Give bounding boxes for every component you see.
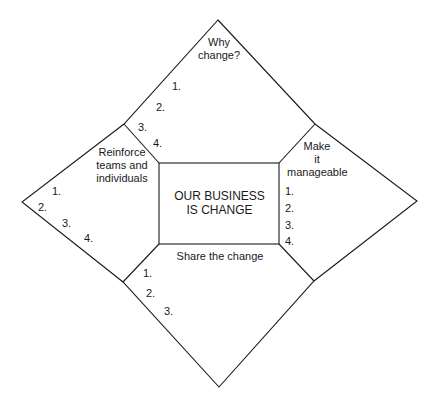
reinforce-item-2: 2.	[38, 201, 47, 214]
title-line: individuals	[94, 172, 150, 185]
divider-bottom-right	[279, 244, 314, 281]
section-title-share-change: Share the change	[170, 250, 270, 263]
share-item-2: 2.	[146, 287, 155, 300]
divider-bottom-left	[123, 244, 159, 282]
why-item-3: 3.	[138, 121, 147, 134]
title-line: Reinforce	[94, 146, 150, 159]
section-title-reinforce-teams: Reinforce teams and individuals	[94, 146, 150, 185]
section-title-make-manageable: Make it manageable	[287, 140, 347, 179]
manageable-item-4: 4.	[285, 235, 294, 248]
share-item-3: 3.	[164, 305, 173, 318]
title-line: manageable	[287, 166, 347, 179]
manageable-item-2: 2.	[285, 202, 294, 215]
reinforce-item-3: 3.	[62, 217, 71, 230]
title-line: Make	[287, 140, 347, 153]
why-item-1: 1.	[172, 80, 181, 93]
title-line: teams and	[94, 159, 150, 172]
title-line: it	[287, 153, 347, 166]
manageable-item-3: 3.	[285, 219, 294, 232]
reinforce-item-4: 4.	[84, 232, 93, 245]
why-item-4: 4.	[153, 137, 162, 150]
reinforce-item-1: 1.	[52, 185, 61, 198]
share-item-1: 1.	[143, 267, 152, 280]
center-title-line: OUR BUSINESS	[160, 189, 279, 203]
center-title-line: IS CHANGE	[160, 203, 279, 217]
title-line: Why	[196, 36, 242, 49]
center-title: OUR BUSINESS IS CHANGE	[160, 189, 279, 217]
why-item-2: 2.	[156, 101, 165, 114]
manageable-item-1: 1.	[285, 185, 294, 198]
title-line: change?	[196, 49, 242, 62]
section-title-why-change: Why change?	[196, 36, 242, 62]
